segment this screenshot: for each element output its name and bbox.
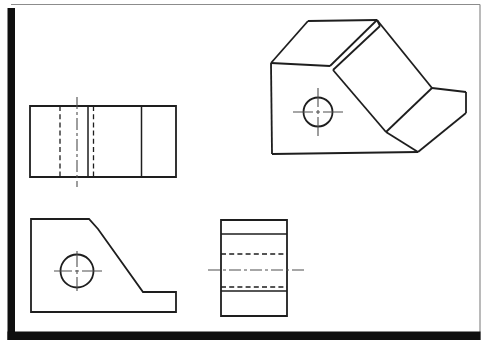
iso-step-front-edge [386,132,418,152]
iso-front-left-edge [271,63,272,154]
iso-slope-right-edge [377,20,432,88]
front-view-outline [31,219,176,312]
iso-slope-bottom-edge [386,88,432,132]
page-border-left-bar [8,8,16,340]
page-border-bottom-bar [8,332,481,341]
isometric-view [271,20,466,154]
side-view [208,220,306,316]
iso-step-bottom-edge [418,113,466,152]
iso-top-front-edge [271,63,330,66]
top-view [30,97,176,187]
iso-bottom-front-edge [272,152,418,154]
iso-slope-left-edge [333,70,386,132]
iso-shoulder-upper-edge [330,20,377,66]
page-frame [8,5,481,341]
drawing-page [0,0,488,352]
iso-top-back-edge [308,20,377,21]
front-view [31,219,176,312]
iso-step-top-edge [432,88,466,92]
drawing-canvas [0,0,488,352]
iso-shoulder-lower-edge [333,26,380,70]
top-view-outline [30,106,176,177]
iso-top-left-edge [271,21,308,63]
